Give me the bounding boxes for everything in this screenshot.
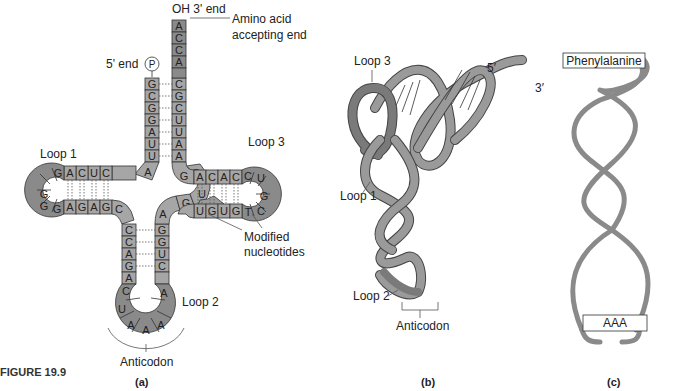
loop-1-label: Loop 1 <box>40 147 77 161</box>
svg-text:A: A <box>144 166 152 178</box>
b-loop-3-label: Loop 3 <box>354 54 391 68</box>
svg-text:U: U <box>175 114 183 126</box>
acceptor-stem-5prime: G C G G A U U <box>145 78 159 162</box>
svg-text:C: C <box>148 90 156 102</box>
svg-text:A: A <box>220 171 228 183</box>
svg-text:A: A <box>160 287 168 299</box>
svg-text:A: A <box>127 319 135 331</box>
acceptor-stem-3prime: A C C A C G C U U A A <box>172 20 186 162</box>
d-stem-bottom: A G A G C <box>64 200 134 224</box>
three-prime-end-label: OH 3' end <box>172 2 226 16</box>
svg-text:U: U <box>220 205 228 217</box>
svg-text:G: G <box>102 201 111 213</box>
b-anticodon-bracket <box>402 302 438 310</box>
svg-text:C: C <box>115 203 123 215</box>
svg-text:C: C <box>102 167 110 179</box>
svg-text:G: G <box>232 205 241 217</box>
svg-text:C: C <box>232 171 240 183</box>
svg-text:G: G <box>148 102 157 114</box>
svg-text:G: G <box>208 205 217 217</box>
t-stem-top: A C A C <box>194 170 242 184</box>
modified-nucleotides-label-2: nucleotides <box>244 245 305 259</box>
svg-text:G: G <box>40 188 49 200</box>
panel-a-cloverleaf: OH 3' end Amino acid accepting end 5' en… <box>25 2 307 388</box>
svg-text:A: A <box>66 201 74 213</box>
svg-text:C: C <box>175 32 183 44</box>
modified-nucleotides-label: Modified <box>244 230 289 244</box>
svg-text:A: A <box>148 126 156 138</box>
amino-acid-end-label-2: accepting end <box>232 28 307 42</box>
svg-text:G: G <box>260 190 269 202</box>
t-stem-bottom: U G U G <box>178 204 242 218</box>
panel-a-caption: (a) <box>135 376 149 388</box>
svg-text:U: U <box>90 167 98 179</box>
svg-text:A: A <box>157 319 165 331</box>
svg-text:G: G <box>148 114 157 126</box>
svg-text:A: A <box>175 150 183 162</box>
svg-text:A: A <box>175 20 183 32</box>
b-three-prime-label: 3′ <box>535 81 545 95</box>
svg-text:G: G <box>175 90 184 102</box>
d-stem-top: C U C A <box>64 166 136 180</box>
panel-c-l-shape: Phenylalanine AAA (c) <box>563 53 648 388</box>
loop-2-label: Loop 2 <box>182 295 219 309</box>
svg-text:G: G <box>78 201 87 213</box>
svg-text:U: U <box>158 248 166 260</box>
svg-text:A: A <box>175 138 183 150</box>
svg-text:C: C <box>125 224 133 236</box>
svg-text:G: G <box>158 236 167 248</box>
b-five-prime-label: 5′ <box>487 61 497 75</box>
svg-text:U: U <box>175 126 183 138</box>
svg-text:G: G <box>40 200 49 212</box>
svg-text:G: G <box>125 260 134 272</box>
svg-text:A: A <box>125 272 133 284</box>
svg-text:C: C <box>175 102 183 114</box>
b-anticodon-label: Anticodon <box>396 319 449 333</box>
phenylalanine-label: Phenylalanine <box>566 54 642 68</box>
panel-c-caption: (c) <box>607 376 621 388</box>
acceptor-hbonds <box>159 84 172 156</box>
svg-text:G: G <box>53 203 62 215</box>
svg-text:U: U <box>148 150 156 162</box>
svg-text:U: U <box>196 205 204 217</box>
loop-3-label: Loop 3 <box>248 135 285 149</box>
svg-text:G: G <box>158 224 167 236</box>
svg-text:C: C <box>244 170 252 182</box>
svg-text:C: C <box>175 78 183 90</box>
svg-text:C: C <box>125 236 133 248</box>
b-loop-2-label: Loop 2 <box>353 289 390 303</box>
svg-text:C: C <box>175 44 183 56</box>
svg-text:G: G <box>148 78 157 90</box>
svg-text:A: A <box>159 208 167 220</box>
svg-text:P: P <box>149 59 156 70</box>
svg-text:A: A <box>125 248 133 260</box>
svg-text:C: C <box>122 285 130 297</box>
svg-text:G: G <box>54 167 63 179</box>
panel-b-3d-structure: Loop 3 5′ 3′ Loop 1 Loop 2 Anticodon (b) <box>340 54 545 388</box>
svg-text:C: C <box>257 205 265 217</box>
b-loop-1-label: Loop 1 <box>340 189 377 203</box>
svg-text:G: G <box>180 170 189 182</box>
svg-text:U: U <box>148 138 156 150</box>
loop-1-d-loop: G G G G <box>25 163 64 217</box>
svg-text:C: C <box>158 260 166 272</box>
amino-acid-end-label: Amino acid <box>232 12 291 26</box>
svg-text:T: T <box>245 206 252 218</box>
panel-b-caption: (b) <box>421 376 435 388</box>
svg-text:A: A <box>196 171 204 183</box>
svg-text:A: A <box>66 167 74 179</box>
d-hbonds <box>68 180 108 200</box>
svg-text:A: A <box>90 201 98 213</box>
anticodon-label: Anticodon <box>120 355 173 369</box>
five-prime-end-label: 5' end <box>106 57 138 71</box>
svg-text:A: A <box>175 56 183 68</box>
svg-text:U: U <box>118 303 126 315</box>
aaa-anticodon-label: AAA <box>603 316 627 330</box>
loop-3-t-loop: C U G C T <box>242 167 281 221</box>
svg-text:C: C <box>208 171 216 183</box>
svg-text:A: A <box>142 324 150 336</box>
loop-2-anticodon-loop: C U A A A A <box>116 284 176 336</box>
svg-text:C: C <box>78 167 86 179</box>
trna-figure: OH 3' end Amino acid accepting end 5' en… <box>0 0 674 391</box>
svg-text:U: U <box>257 172 265 184</box>
